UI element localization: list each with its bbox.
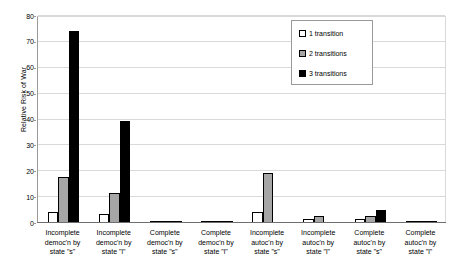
bar-cluster bbox=[38, 16, 89, 223]
y-tick-label: 60 bbox=[4, 64, 34, 71]
x-axis-baseline bbox=[37, 222, 446, 223]
y-tick-mark bbox=[33, 171, 36, 172]
legend: 1 transition2 transitions3 transitions bbox=[291, 20, 373, 85]
x-tick-label: Completeautoc'n bystate "s" bbox=[344, 228, 395, 257]
x-tick-label-line: Incomplete bbox=[242, 228, 293, 238]
x-tick-label-line: autoc'n by bbox=[395, 238, 446, 248]
bar-group bbox=[191, 16, 242, 223]
x-axis-labels: Incompletedemoc'n bystate "s"Incompleted… bbox=[37, 228, 446, 268]
x-tick-label-line: Incomplete bbox=[37, 228, 88, 238]
y-tick-label: 40 bbox=[4, 116, 34, 123]
bar-cluster bbox=[396, 16, 447, 223]
plot-area bbox=[37, 16, 446, 223]
x-tick-label-line: Complete bbox=[190, 228, 241, 238]
y-tick-mark bbox=[33, 145, 36, 146]
x-tick-label-line: Complete bbox=[344, 228, 395, 238]
x-tick-label-line: democ'n by bbox=[190, 238, 241, 248]
bar-group bbox=[396, 16, 447, 223]
gray-square-icon bbox=[299, 50, 306, 57]
x-tick-label-line: state "l" bbox=[190, 247, 241, 257]
x-tick-label: Completedemoc'n bystate "l" bbox=[190, 228, 241, 257]
bar bbox=[263, 173, 274, 223]
y-axis-ticks: 01020304050607080 bbox=[0, 0, 34, 275]
x-tick-label: Incompleteautoc'n bystate "l" bbox=[293, 228, 344, 257]
x-tick-label: Incompletedemoc'n bystate "s" bbox=[37, 228, 88, 257]
x-tick-label: Completedemoc'n bystate "s" bbox=[139, 228, 190, 257]
y-tick-mark bbox=[33, 42, 36, 43]
y-tick-mark bbox=[33, 223, 36, 224]
y-tick-mark bbox=[33, 120, 36, 121]
x-tick-label: Incompletedemoc'n bystate "l" bbox=[88, 228, 139, 257]
bar bbox=[58, 177, 69, 223]
bar-group bbox=[140, 16, 191, 223]
x-tick-label-line: state "s" bbox=[37, 247, 88, 257]
y-tick-label: 0 bbox=[4, 220, 34, 227]
x-tick-label-line: democ'n by bbox=[37, 238, 88, 248]
x-tick-label-line: state "s" bbox=[242, 247, 293, 257]
y-tick-mark bbox=[33, 197, 36, 198]
bar-cluster bbox=[191, 16, 242, 223]
legend-item[interactable]: 2 transitions bbox=[299, 50, 347, 57]
y-tick-label: 50 bbox=[4, 90, 34, 97]
legend-item-label: 2 transitions bbox=[309, 50, 347, 57]
x-tick-label-line: Complete bbox=[395, 228, 446, 238]
x-tick-label-line: Incomplete bbox=[88, 228, 139, 238]
legend-item[interactable]: 1 transition bbox=[299, 30, 343, 37]
y-tick-label: 20 bbox=[4, 168, 34, 175]
bar-cluster bbox=[243, 16, 294, 223]
x-tick-label-line: state "l" bbox=[88, 247, 139, 257]
y-tick-label: 30 bbox=[4, 142, 34, 149]
x-tick-label: Completeautoc'n bystate "l" bbox=[395, 228, 446, 257]
y-tick-mark bbox=[33, 94, 36, 95]
bar-group bbox=[243, 16, 294, 223]
y-tick-label: 70 bbox=[4, 38, 34, 45]
black-square-icon bbox=[299, 70, 306, 77]
legend-item[interactable]: 3 transitions bbox=[299, 70, 347, 77]
y-tick-mark bbox=[33, 68, 36, 69]
x-tick-label-line: democ'n by bbox=[88, 238, 139, 248]
bar-group bbox=[38, 16, 89, 223]
x-tick-label-line: Complete bbox=[139, 228, 190, 238]
x-tick-label-line: state "l" bbox=[395, 247, 446, 257]
legend-item-label: 3 transitions bbox=[309, 70, 347, 77]
x-tick-label-line: state "s" bbox=[344, 247, 395, 257]
bar-chart: Relative Risk of War 01020304050607080 I… bbox=[0, 0, 454, 275]
bar-group bbox=[89, 16, 140, 223]
y-tick-mark bbox=[33, 16, 36, 17]
bar bbox=[69, 31, 80, 223]
bar-cluster bbox=[89, 16, 140, 223]
x-tick-label-line: democ'n by bbox=[139, 238, 190, 248]
bar bbox=[120, 121, 131, 223]
y-tick-label: 10 bbox=[4, 194, 34, 201]
x-tick-label-line: autoc'n by bbox=[242, 238, 293, 248]
bar bbox=[109, 193, 120, 223]
white-square-icon bbox=[299, 30, 306, 37]
x-tick-label-line: Incomplete bbox=[293, 228, 344, 238]
x-tick-label-line: autoc'n by bbox=[344, 238, 395, 248]
x-tick-label: Incompleteautoc'n bystate "s" bbox=[242, 228, 293, 257]
x-tick-label-line: state "l" bbox=[293, 247, 344, 257]
x-tick-label-line: autoc'n by bbox=[293, 238, 344, 248]
legend-item-label: 1 transition bbox=[309, 30, 343, 37]
y-tick-label: 80 bbox=[4, 13, 34, 20]
bar-cluster bbox=[140, 16, 191, 223]
x-tick-label-line: state "s" bbox=[139, 247, 190, 257]
